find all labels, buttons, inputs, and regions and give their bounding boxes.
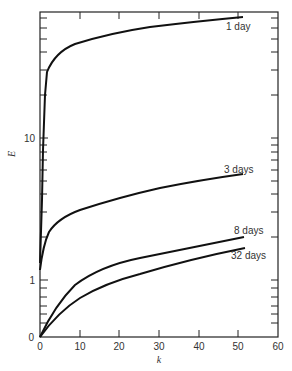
y-tick-0: 0	[28, 332, 34, 343]
series-1-day-line	[40, 17, 243, 263]
top-x-ticks	[80, 12, 238, 19]
label-32-days: 32 days	[231, 250, 266, 261]
label-8-days: 8 days	[234, 225, 263, 236]
x-axis-label: k	[157, 354, 162, 365]
series-8-days-line	[40, 237, 244, 337]
x-tick-0: 0	[37, 341, 43, 352]
x-tick-30: 30	[153, 341, 165, 352]
y-tick-10: 10	[24, 133, 36, 144]
label-1-day: 1 day	[226, 21, 250, 32]
y-axis-label: E	[6, 151, 17, 158]
y-tick-1: 1	[29, 275, 35, 286]
chart: 1 day 3 days 8 days 32 days 0 1 10 0 10 …	[0, 0, 292, 371]
left-y-ticks	[40, 18, 48, 323]
bottom-x-ticks	[80, 330, 238, 337]
x-tick-60: 60	[272, 341, 284, 352]
label-3-days: 3 days	[224, 164, 253, 175]
x-tick-40: 40	[193, 341, 205, 352]
x-tick-50: 50	[232, 341, 244, 352]
x-tick-10: 10	[74, 341, 86, 352]
right-y-ticks	[271, 18, 278, 323]
x-tick-20: 20	[113, 341, 125, 352]
series-32-days-line	[40, 248, 245, 337]
